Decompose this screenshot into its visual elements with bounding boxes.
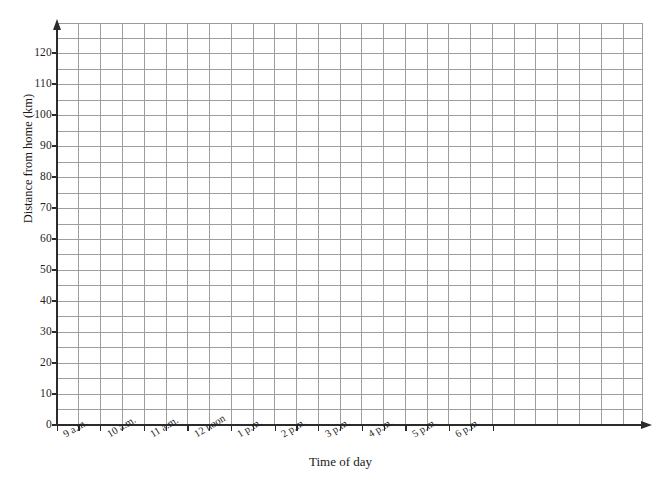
x-tick-label: 3 p.m.	[323, 416, 351, 439]
x-tick-label: 10 a.m.	[105, 414, 137, 439]
x-tick-label: 6 p.m.	[453, 416, 481, 439]
x-tick-label: 12 noon	[192, 412, 227, 439]
distance-time-graph: 0102030405060708090100110120 9 a.m.10 a.…	[0, 0, 657, 481]
x-axis-title: Time of day	[0, 455, 657, 469]
x-tick-label: 11 a.m.	[148, 414, 180, 439]
x-tick-label: 2 p.m.	[279, 416, 307, 439]
x-axis-title-text: Time of day	[309, 454, 372, 469]
x-tick-label: 5 p.m.	[410, 416, 438, 439]
y-axis-title: Distance from home (km)	[22, 69, 35, 249]
x-tick-label: 1 p.m.	[235, 416, 263, 439]
x-axis-tick-labels: 9 a.m.10 a.m.11 a.m.12 noon1 p.m.2 p.m.3…	[0, 0, 657, 481]
x-tick-label: 4 p.m.	[366, 416, 394, 439]
x-tick-label: 9 a.m.	[61, 417, 89, 440]
